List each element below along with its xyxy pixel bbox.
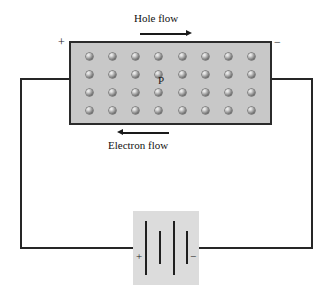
hole-sphere-icon [155,53,162,60]
hole-cell [124,84,147,102]
hole-cell [171,102,194,120]
hole-sphere-icon [248,53,255,60]
hole-sphere-icon [155,107,162,114]
hole-sphere-icon [225,71,232,78]
hole-sphere-icon [202,107,209,114]
hole-sphere-icon [179,53,186,60]
electron-flow-label: Electron flow [108,140,168,151]
battery-plate-long-1 [145,221,147,275]
hole-cell [78,47,101,65]
wire-top-left-segment [20,78,71,80]
hole-sphere-icon [109,53,116,60]
wire-right-vertical [311,78,313,249]
hole-sphere-icon [109,71,116,78]
hole-cell [101,102,124,120]
hole-cell [124,65,147,83]
hole-cell [124,47,147,65]
wire-left-vertical [20,78,22,249]
hole-sphere-icon [225,89,232,96]
hole-sphere-icon [132,53,139,60]
left-terminal-plus-sign: + [58,36,65,48]
wire-bottom-left-segment [20,247,145,249]
hole-sphere-icon [202,71,209,78]
hole-sphere-icon [248,107,255,114]
hole-cell [217,102,240,120]
hole-sphere-icon [132,89,139,96]
hole-cell [194,47,217,65]
hole-cell [101,47,124,65]
hole-sphere-icon [248,89,255,96]
battery-plus-sign: + [136,251,142,262]
semiconductor-type-label: P [158,75,164,86]
hole-cell [194,102,217,120]
hole-cell [171,65,194,83]
hole-cell [217,65,240,83]
hole-sphere-icon [225,107,232,114]
hole-sphere-icon [179,71,186,78]
arrow-left-icon [117,129,123,135]
battery-plate-long-2 [173,221,175,275]
hole-sphere-icon [109,107,116,114]
hole-sphere-icon [202,53,209,60]
right-terminal-minus-sign: − [274,36,281,48]
hole-cell [124,102,147,120]
hole-flow-arrow-shaft [140,33,188,35]
hole-sphere-icon [86,107,93,114]
hole-sphere-icon [202,89,209,96]
hole-cell [171,47,194,65]
hole-cell [240,102,263,120]
hole-cell [78,102,101,120]
wire-top-right-segment [271,78,313,80]
hole-cell [194,65,217,83]
hole-cell [78,65,101,83]
hole-sphere-icon [155,89,162,96]
hole-sphere-icon [225,53,232,60]
hole-sphere-icon [86,71,93,78]
hole-cell [171,84,194,102]
hole-cell [240,65,263,83]
hole-sphere-icon [248,71,255,78]
hole-cell [217,84,240,102]
hole-cell [101,65,124,83]
battery-minus-sign: − [190,251,196,262]
hole-cell [147,84,170,102]
battery-plate-short-2 [186,231,188,264]
hole-cell [101,84,124,102]
hole-cell [194,84,217,102]
hole-cell [147,47,170,65]
semiconductor-hole-flow-diagram: P + − Hole flow Electron flow + − [0,0,331,285]
hole-sphere-icon [132,71,139,78]
hole-cell [217,47,240,65]
arrow-right-icon [186,30,192,36]
hole-grid [71,43,270,123]
hole-cell [240,47,263,65]
hole-cell [147,102,170,120]
hole-sphere-icon [179,107,186,114]
battery-symbol [133,211,199,285]
hole-cell [78,84,101,102]
p-type-semiconductor-block [69,41,272,125]
hole-sphere-icon [86,53,93,60]
hole-sphere-icon [179,89,186,96]
hole-sphere-icon [86,89,93,96]
hole-sphere-icon [109,89,116,96]
hole-flow-label: Hole flow [134,13,178,24]
electron-flow-arrow-shaft [122,132,169,134]
wire-bottom-right-segment [186,247,313,249]
battery-plate-short-1 [159,231,161,264]
hole-cell [240,84,263,102]
hole-sphere-icon [132,107,139,114]
